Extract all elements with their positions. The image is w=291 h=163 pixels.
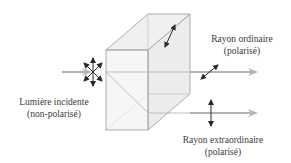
label-ordinary-line1: Rayon ordinaire [200, 33, 284, 45]
label-incident-line2: (non-polarisé) [9, 108, 99, 120]
label-incident-line1: Lumière incidente [9, 96, 99, 108]
birefringence-diagram: Lumière incidente (non-polarisé) Rayon o… [0, 0, 291, 163]
label-extraordinary-line1: Rayon extraordinaire [168, 134, 278, 146]
label-ordinary-line2: (polarisé) [200, 45, 284, 57]
label-extraordinary: Rayon extraordinaire (polarisé) [168, 134, 278, 158]
label-incident: Lumière incidente (non-polarisé) [9, 96, 99, 120]
label-extraordinary-line2: (polarisé) [168, 146, 278, 158]
label-ordinary: Rayon ordinaire (polarisé) [200, 33, 284, 57]
